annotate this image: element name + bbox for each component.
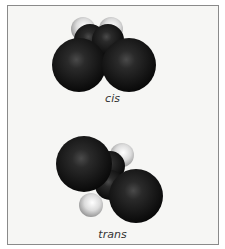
cl-atom [56, 136, 112, 192]
trans-label: trans [0, 228, 225, 241]
trans-molecule [56, 136, 163, 223]
cl-atom [109, 169, 163, 223]
cis-molecule [52, 17, 156, 92]
cl-atom [52, 38, 106, 92]
molecule-diagram [0, 0, 225, 249]
cl-atom [102, 38, 156, 92]
cis-label: cis [0, 92, 225, 105]
h-atom [79, 193, 103, 217]
